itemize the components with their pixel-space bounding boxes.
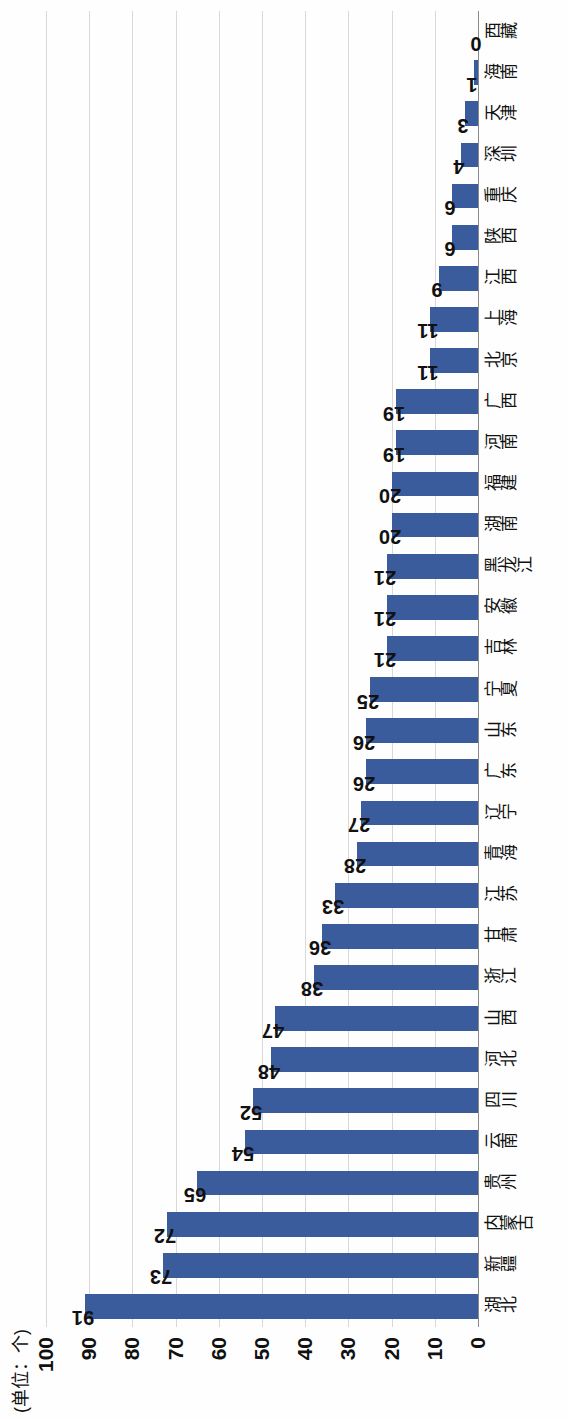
category-label-text: 北京 bbox=[484, 348, 516, 373]
y-axis-tick-label: 50 bbox=[250, 1327, 274, 1360]
category-label-text: 浙江 bbox=[484, 965, 516, 990]
bar-column[interactable]: 21 bbox=[46, 628, 478, 669]
category-label-text: 甘肃 bbox=[484, 924, 516, 949]
category-label-text: 内蒙古 bbox=[484, 1212, 532, 1237]
bar-column[interactable]: 73 bbox=[46, 1245, 478, 1286]
bar-value-label: 1 bbox=[466, 73, 477, 96]
bar-column[interactable]: 1 bbox=[46, 52, 478, 93]
bar[interactable] bbox=[85, 1294, 478, 1319]
category-label: 重庆 bbox=[484, 176, 564, 217]
bar-column[interactable]: 3 bbox=[46, 93, 478, 134]
category-label: 河南 bbox=[484, 422, 564, 463]
category-label-text: 河北 bbox=[484, 1047, 516, 1072]
bar-column[interactable]: 21 bbox=[46, 546, 478, 587]
unit-label: (单位：个) bbox=[6, 1329, 32, 1413]
bar[interactable] bbox=[439, 266, 478, 291]
bar[interactable] bbox=[387, 554, 478, 579]
category-label: 江西 bbox=[484, 258, 564, 299]
bar-value-label: 72 bbox=[154, 1224, 176, 1247]
bar[interactable] bbox=[253, 1088, 478, 1113]
bar[interactable] bbox=[275, 1006, 478, 1031]
y-axis-tick-label: 90 bbox=[77, 1327, 101, 1360]
bar-column[interactable]: 38 bbox=[46, 957, 478, 998]
bar-column[interactable]: 65 bbox=[46, 1163, 478, 1204]
bar[interactable] bbox=[387, 595, 478, 620]
category-label: 西藏 bbox=[484, 11, 564, 52]
category-label: 湖北 bbox=[484, 1286, 564, 1327]
bar-value-label: 47 bbox=[262, 1019, 284, 1042]
category-axis-labels: 湖北新疆内蒙古贵州云南四川河北山西浙江甘肃江苏青海辽宁广东山东宁夏吉林安徽黑龙江… bbox=[484, 11, 564, 1327]
category-label: 湖南 bbox=[484, 505, 564, 546]
bar-column[interactable]: 11 bbox=[46, 299, 478, 340]
bar-column[interactable]: 27 bbox=[46, 792, 478, 833]
bar-column[interactable]: 20 bbox=[46, 505, 478, 546]
bar-column[interactable]: 19 bbox=[46, 422, 478, 463]
bar-column[interactable]: 91 bbox=[46, 1286, 478, 1327]
bar-column[interactable]: 48 bbox=[46, 1039, 478, 1080]
bar-column[interactable]: 4 bbox=[46, 134, 478, 175]
bar-column[interactable]: 72 bbox=[46, 1204, 478, 1245]
y-axis-tick-label: 20 bbox=[380, 1327, 404, 1360]
bar-value-label: 26 bbox=[353, 772, 375, 795]
bar-value-label: 54 bbox=[232, 1142, 254, 1165]
category-label: 天津 bbox=[484, 93, 564, 134]
category-label-text: 山西 bbox=[484, 1006, 516, 1031]
bar-column[interactable]: 36 bbox=[46, 916, 478, 957]
bar-column[interactable]: 20 bbox=[46, 463, 478, 504]
category-label: 吉林 bbox=[484, 628, 564, 669]
bar-value-label: 73 bbox=[150, 1265, 172, 1288]
bar-column[interactable]: 0 bbox=[46, 11, 478, 52]
bar[interactable] bbox=[322, 924, 478, 949]
bar[interactable] bbox=[314, 965, 478, 990]
bar-column[interactable]: 28 bbox=[46, 834, 478, 875]
category-label-text: 广东 bbox=[484, 759, 516, 784]
category-label: 广西 bbox=[484, 381, 564, 422]
bar-column[interactable]: 6 bbox=[46, 217, 478, 258]
bar[interactable] bbox=[452, 225, 478, 250]
bar[interactable] bbox=[197, 1171, 478, 1196]
bar-column[interactable]: 26 bbox=[46, 710, 478, 751]
bar-chart: (单位：个) 100908070605040302010091737265545… bbox=[0, 0, 568, 1419]
bar-value-label: 4 bbox=[453, 155, 464, 178]
bar-column[interactable]: 54 bbox=[46, 1121, 478, 1162]
bar[interactable] bbox=[396, 389, 478, 414]
category-label-text: 广西 bbox=[484, 389, 516, 414]
bar-column[interactable]: 26 bbox=[46, 751, 478, 792]
bar-column[interactable]: 25 bbox=[46, 669, 478, 710]
bar-value-label: 20 bbox=[378, 484, 400, 507]
category-label-text: 上海 bbox=[484, 307, 516, 332]
bar[interactable] bbox=[392, 513, 478, 538]
bar-column[interactable]: 11 bbox=[46, 340, 478, 381]
bar[interactable] bbox=[357, 842, 478, 867]
bar[interactable] bbox=[271, 1047, 478, 1072]
bar[interactable] bbox=[167, 1212, 478, 1237]
category-label: 江苏 bbox=[484, 875, 564, 916]
bar[interactable] bbox=[366, 718, 478, 743]
bar[interactable] bbox=[387, 636, 478, 661]
bar[interactable] bbox=[163, 1253, 478, 1278]
bar-column[interactable]: 9 bbox=[46, 258, 478, 299]
bar-column[interactable]: 21 bbox=[46, 587, 478, 628]
bar-column[interactable]: 33 bbox=[46, 875, 478, 916]
plot-area: 1009080706050403020100917372655452484738… bbox=[46, 11, 478, 1327]
bar[interactable] bbox=[335, 883, 478, 908]
category-label-text: 辽宁 bbox=[484, 800, 516, 825]
bar-value-label: 36 bbox=[309, 936, 331, 959]
category-label: 安徽 bbox=[484, 587, 564, 628]
bar[interactable] bbox=[392, 472, 478, 497]
bar[interactable] bbox=[366, 759, 478, 784]
category-label-text: 新疆 bbox=[484, 1253, 516, 1278]
bar-series: 9173726554524847383633282726262521212120… bbox=[46, 11, 478, 1327]
bar[interactable] bbox=[245, 1130, 478, 1155]
bar-column[interactable]: 6 bbox=[46, 176, 478, 217]
category-label: 浙江 bbox=[484, 957, 564, 998]
bar-column[interactable]: 19 bbox=[46, 381, 478, 422]
category-label-text: 福建 bbox=[484, 471, 516, 496]
category-label: 甘肃 bbox=[484, 916, 564, 957]
bar[interactable] bbox=[452, 184, 478, 209]
bar-column[interactable]: 47 bbox=[46, 998, 478, 1039]
bar[interactable] bbox=[396, 430, 478, 455]
bar-column[interactable]: 52 bbox=[46, 1080, 478, 1121]
bar[interactable] bbox=[370, 677, 478, 702]
bar[interactable] bbox=[361, 801, 478, 826]
